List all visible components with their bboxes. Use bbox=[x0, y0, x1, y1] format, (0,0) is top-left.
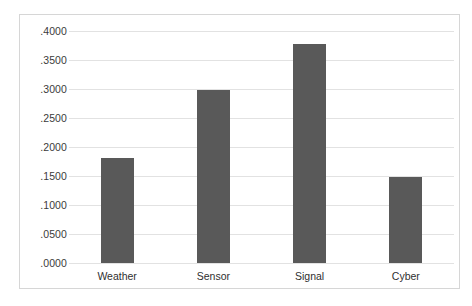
y-tick-label-0: .4000 bbox=[23, 26, 67, 37]
bar-weather[interactable] bbox=[101, 158, 134, 263]
y-tick-label-7: .0500 bbox=[23, 229, 67, 240]
category-label-weather: Weather bbox=[77, 271, 157, 282]
bars-layer bbox=[69, 15, 454, 288]
x-axis-category-labels: Weather Sensor Signal Cyber bbox=[69, 267, 454, 287]
y-tick-label-6: .1000 bbox=[23, 200, 67, 211]
y-tick-label-4: .2000 bbox=[23, 142, 67, 153]
category-label-sensor: Sensor bbox=[173, 271, 253, 282]
bar-chart-figure: .4000 .3500 .3000 .2500 .2000 .1500 .100… bbox=[19, 14, 460, 289]
y-tick-label-3: .2500 bbox=[23, 113, 67, 124]
bar-cyber[interactable] bbox=[389, 177, 422, 263]
plot-area bbox=[69, 15, 454, 288]
category-label-cyber: Cyber bbox=[366, 271, 446, 282]
y-tick-label-2: .3000 bbox=[23, 84, 67, 95]
category-label-signal: Signal bbox=[270, 271, 350, 282]
bar-signal[interactable] bbox=[293, 44, 326, 263]
y-tick-label-5: .1500 bbox=[23, 171, 67, 182]
bar-sensor[interactable] bbox=[197, 90, 230, 263]
y-tick-label-1: .3500 bbox=[23, 55, 67, 66]
y-axis-tick-labels: .4000 .3500 .3000 .2500 .2000 .1500 .100… bbox=[20, 15, 67, 288]
y-tick-label-8: .0000 bbox=[23, 258, 67, 269]
